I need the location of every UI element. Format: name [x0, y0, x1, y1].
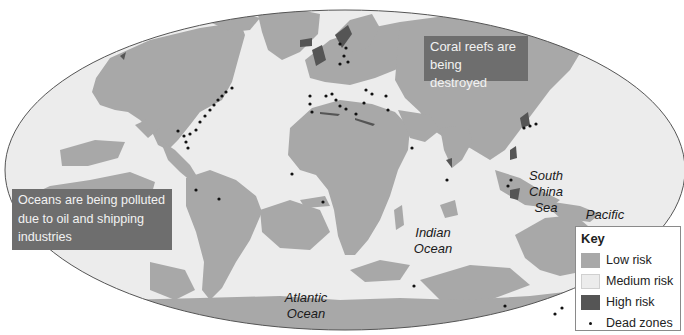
annotation-coral-line1: Coral reefs are: [430, 38, 522, 56]
annotation-pollution-line1: Oceans are being polluted: [18, 191, 166, 210]
legend-label: Medium risk: [606, 274, 673, 288]
legend-label: Dead zones: [606, 316, 673, 330]
label-indian-line2: Ocean: [408, 241, 458, 257]
high-risk-swatch: [581, 295, 600, 310]
annotation-coral-line2: being destroyed: [430, 56, 522, 92]
label-indian-line1: Indian: [408, 225, 458, 241]
annotation-ocean-pollution: Oceans are being polluted due to oil and…: [12, 189, 172, 250]
label-atlantic-line2: Ocean: [278, 306, 334, 322]
dead-zone-dot-icon: [581, 316, 600, 331]
legend-label: High risk: [606, 295, 655, 309]
legend-item-dead-zones: Dead zones: [581, 313, 676, 333]
label-scs-line1: South: [524, 168, 568, 184]
legend-item-medium-risk: Medium risk: [581, 271, 676, 291]
low-risk-swatch: [581, 253, 600, 268]
legend-item-low-risk: Low risk: [581, 250, 676, 270]
annotation-pollution-line2: due to oil and shipping: [18, 210, 166, 229]
medium-risk-swatch: [581, 274, 600, 289]
label-pacific-line1: Pacific: [580, 207, 630, 223]
label-atlantic-ocean: Atlantic Ocean: [278, 290, 334, 322]
legend-title: Key: [581, 231, 676, 247]
legend-label: Low risk: [606, 253, 652, 267]
label-scs-line3: Sea: [524, 200, 568, 216]
label-south-china-sea: South China Sea: [524, 168, 568, 216]
annotation-coral-reefs: Coral reefs are being destroyed: [424, 36, 528, 81]
annotation-pollution-line3: industries: [18, 228, 166, 247]
label-indian-ocean: Indian Ocean: [408, 225, 458, 257]
map-legend: Key Low risk Medium risk High risk Dead …: [575, 226, 681, 331]
label-atlantic-line1: Atlantic: [278, 290, 334, 306]
label-scs-line2: China: [524, 184, 568, 200]
legend-item-high-risk: High risk: [581, 292, 676, 312]
